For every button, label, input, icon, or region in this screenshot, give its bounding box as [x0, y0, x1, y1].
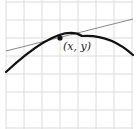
point-label: (x, y)	[63, 40, 91, 53]
point-of-tangency	[57, 35, 62, 40]
grid	[6, 0, 133, 129]
tangent-line-diagram: (x, y)	[0, 0, 139, 129]
